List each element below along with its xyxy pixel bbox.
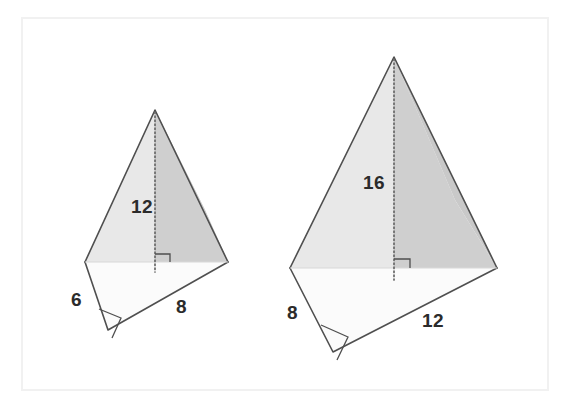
left-pyramid-side-b-label: 8 (176, 296, 187, 318)
right-pyramid-side-a-label: 8 (287, 302, 298, 324)
left-pyramid-height-label: 12 (131, 196, 153, 218)
right-pyramid-side-b-label: 12 (422, 310, 444, 332)
left-pyramid-front-base (85, 262, 228, 330)
left-pyramid-side-a-label: 6 (71, 289, 82, 311)
right-pyramid-height-label: 16 (363, 172, 385, 194)
figure-border (22, 18, 548, 390)
geometry-figure: 12 6 8 16 8 12 (0, 0, 570, 407)
left-pyramid (85, 110, 228, 338)
pyramids-diagram (0, 0, 570, 407)
right-pyramid (290, 57, 497, 360)
